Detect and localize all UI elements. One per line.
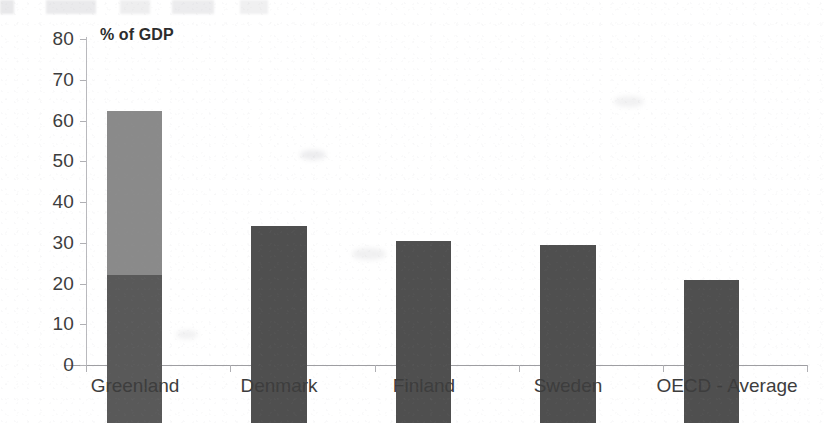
x-axis-category-label: OECD - Average [644,375,810,397]
bar-oecd-average [684,280,739,423]
y-axis-tick [80,80,86,81]
y-axis-tick [80,39,86,40]
x-axis-category-label: Finland [363,375,485,397]
x-axis-category-label: Denmark [218,375,340,397]
y-axis-tick [80,161,86,162]
y-axis-tick [80,284,86,285]
scan-smudge [176,330,198,339]
y-axis-line [86,37,87,367]
y-axis-label: 70 [34,70,74,89]
series-annotation: % of GDP [100,26,174,44]
y-axis-tick [80,202,86,203]
scan-smudge [614,96,644,107]
x-axis-tick [519,365,520,372]
bar-segment-additional [107,111,162,275]
y-axis-label: 40 [34,192,74,211]
y-axis-label: 80 [34,29,74,48]
y-axis-tick [80,243,86,244]
scan-smudge [352,248,386,260]
y-axis-label: 20 [34,274,74,293]
y-axis-labels: 80 70 60 50 40 30 20 10 0 [28,0,74,423]
y-axis-label: 60 [34,111,74,130]
x-axis-tick [86,365,87,372]
y-axis-label: 30 [34,233,74,252]
x-axis-tick [375,365,376,372]
y-axis-tick [80,121,86,122]
y-axis-label: 50 [34,151,74,170]
y-axis-tick [80,324,86,325]
x-axis-category-label: Greenland [74,375,196,397]
bar-chart: 80 70 60 50 40 30 20 10 0 % of GDP Green… [0,0,825,423]
x-axis-tick [663,365,664,372]
x-axis-tick [230,365,231,372]
y-axis-label: 0 [34,355,74,374]
bar-segment-base [107,275,162,423]
x-axis-tick [807,365,808,372]
x-axis-category-label: Sweden [507,375,629,397]
y-axis-label: 10 [34,314,74,333]
scan-smudge [300,150,326,160]
bar-segment-base [684,280,739,423]
